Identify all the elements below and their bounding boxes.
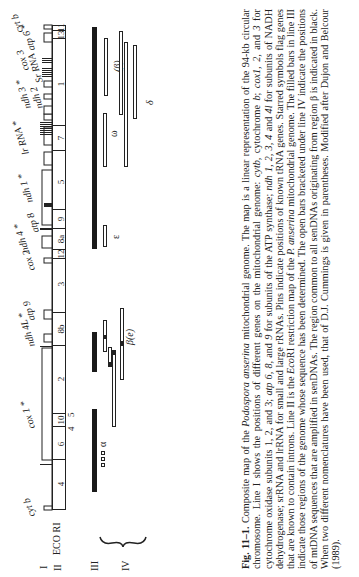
epsilon-label: ε [110,235,121,239]
fragment-12: 12 [56,249,66,259]
sequenced-region-2 [92,332,97,372]
alpha-extended-bar [112,350,116,427]
alpha-bar-1 [101,463,105,467]
fragment-3: 3 [56,279,66,289]
senDNA-bar-3 [119,31,123,115]
beta-e-label: β(e) [124,329,135,345]
line-iv-brace [98,533,148,549]
fragment-6: 6 [56,439,66,449]
fragment-4: 4 [56,479,66,489]
senDNA-bar-4 [124,42,128,167]
fragment-9: 9 [56,212,66,226]
fragment-2: 2 [56,374,66,384]
senDNA-bar-1 [103,320,107,352]
alpha-label: α [97,442,108,447]
small-fragment-4: 4 [66,427,76,432]
fragment-7: 7 [56,132,66,144]
fragment-11: 11 [56,24,66,32]
delta-label: δ [144,100,155,105]
figure-number: Fig. 11–1. [240,527,251,569]
omega-label: ω [108,130,119,137]
sequenced-region-3 [92,27,97,249]
fragment-10: 10 [56,414,66,426]
ecori-map: 4 6 10 2 8b 3 12 8a 9 5 7 1 13 11 [52,25,66,510]
fragment-8a: 8a [56,229,66,249]
line-label-iv: IV [120,560,131,571]
small-fragment-5: 5 [66,413,76,418]
epsilon-bar [103,225,107,247]
fragment-1: 1 [56,79,66,89]
line-label-iii: III [89,561,100,571]
beta-paren-bar [104,38,108,96]
fragment-5: 5 [56,177,66,187]
rotated-figure-page: I II ECO RI III IV [0,0,359,577]
delta-bar [133,45,137,119]
fragment-8b: 8b [56,319,66,339]
sequenced-region-1 [92,409,97,492]
figure-caption: Fig. 11–1. Composite map of the Podospor… [240,9,342,569]
alpha-bar-3 [101,451,105,455]
omega-bar [103,113,107,167]
alpha-bar-2 [101,457,105,461]
